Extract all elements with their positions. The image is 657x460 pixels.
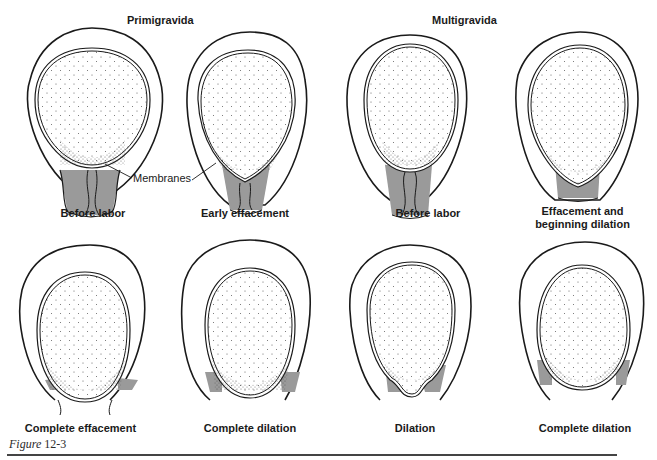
uterus-primigravida-complete-effacement — [20, 245, 145, 415]
figure-caption-word: Figure — [9, 437, 41, 451]
panel-label-before-labor-primigravida: Before labor — [48, 207, 138, 219]
figure-caption: Figure 12-3 — [9, 437, 66, 452]
panel-label-dilation: Dilation — [385, 422, 445, 434]
caption-rule-divider — [7, 454, 617, 456]
panel-label-complete-effacement: Complete effacement — [18, 422, 143, 434]
panel-label-early-effacement: Early effacement — [195, 207, 295, 219]
group-heading-primigravida: Primigravida — [127, 14, 194, 26]
panel-label-complete-dilation-primigravida: Complete dilation — [195, 422, 305, 434]
uterus-multigravida-before-labor — [347, 35, 467, 219]
uterus-multigravida-dilation — [350, 245, 471, 400]
membranes-label: Membranes — [133, 172, 191, 184]
panel-label-before-labor-multigravida: Before labor — [383, 207, 473, 219]
panel-label-line1: Effacement and — [542, 205, 624, 217]
uterus-multigravida-effacement-beginning-dilation — [516, 32, 638, 202]
panel-label-line2: beginning dilation — [535, 218, 630, 230]
panel-label-complete-dilation-multigravida: Complete dilation — [530, 422, 640, 434]
uterus-primigravida-early-effacement — [187, 32, 307, 214]
panel-label-effacement-beginning-dilation: Effacement and beginning dilation — [525, 205, 640, 231]
uterus-primigravida-before-labor — [27, 28, 162, 217]
uterus-multigravida-complete-dilation — [520, 242, 644, 400]
uterus-primigravida-complete-dilation — [182, 240, 311, 400]
group-heading-multigravida: Multigravida — [432, 14, 497, 26]
figure-caption-number: 12-3 — [44, 437, 66, 451]
